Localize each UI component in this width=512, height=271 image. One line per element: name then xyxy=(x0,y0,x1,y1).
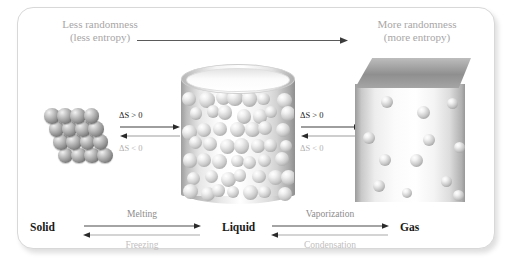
gas-particle xyxy=(379,154,391,166)
liquid-particle xyxy=(251,139,264,152)
transition-arrows-liquid-gas-icon xyxy=(270,222,390,240)
solid-particle xyxy=(84,108,100,124)
cylinder-rim-inner xyxy=(186,68,290,92)
liquid-particle xyxy=(258,186,271,199)
gas-particle xyxy=(453,190,464,201)
liquid-particle xyxy=(252,170,265,183)
gas-particle xyxy=(402,188,412,198)
liquid-particle xyxy=(281,170,294,185)
liquid-particle xyxy=(230,122,245,137)
transition-condensation-label: Condensation xyxy=(270,240,390,250)
liquid-particle xyxy=(243,185,258,200)
gas-particle xyxy=(363,132,375,144)
entropy-reverse-label-solid-liquid: ΔS < 0 xyxy=(119,143,181,153)
more-randomness-line2: (more entropy) xyxy=(352,31,482,44)
liquid-particle xyxy=(183,184,198,199)
liquid-particle xyxy=(213,122,227,136)
liquid-particle xyxy=(257,93,269,105)
liquid-particle xyxy=(245,122,260,137)
solid-particle xyxy=(88,121,104,137)
entropy-arrows-solid-liquid-icon xyxy=(119,123,181,143)
gas-particle xyxy=(381,96,393,108)
gas-cube-illustration xyxy=(349,58,471,206)
liquid-particle xyxy=(189,136,202,149)
entropy-states-diagram: Less randomness (less entropy) More rand… xyxy=(0,0,512,271)
liquid-particle xyxy=(276,123,290,137)
liquid-particle xyxy=(258,154,271,167)
liquid-particle xyxy=(227,186,239,198)
liquid-particle xyxy=(197,153,211,167)
cube-top-face xyxy=(349,58,471,88)
liquid-particle xyxy=(243,156,257,170)
liquid-particle xyxy=(203,137,218,152)
liquid-particle xyxy=(281,106,294,120)
liquid-particle xyxy=(234,169,247,182)
more-randomness-line1: More randomness xyxy=(352,18,482,31)
liquid-particle xyxy=(231,155,243,167)
liquid-particle xyxy=(264,139,277,152)
liquid-particle xyxy=(212,154,227,169)
liquid-particle xyxy=(278,187,292,201)
gas-particle xyxy=(454,142,465,153)
liquid-particle xyxy=(197,123,211,137)
transition-solid-liquid: Melting Freezing xyxy=(82,209,202,255)
state-label-gas: Gas xyxy=(400,221,419,233)
gas-particle xyxy=(417,106,430,119)
transition-liquid-gas: Vaporization Condensation xyxy=(270,209,390,255)
solid-lattice-illustration xyxy=(44,106,114,176)
liquid-particle xyxy=(205,170,218,183)
liquid-particle xyxy=(218,105,233,120)
liquid-particle xyxy=(182,92,196,106)
liquid-particle xyxy=(183,153,198,168)
entropy-forward-label-solid-liquid: ΔS > 0 xyxy=(119,110,181,120)
solid-particle xyxy=(97,148,113,164)
liquid-particle xyxy=(190,107,202,119)
less-randomness-line1: Less randomness xyxy=(40,18,160,31)
solid-particle xyxy=(93,134,109,150)
liquid-cylinder-illustration xyxy=(181,60,295,208)
transition-melting-label: Melting xyxy=(82,209,202,219)
liquid-particle xyxy=(212,184,225,197)
transition-freezing-label: Freezing xyxy=(82,240,202,250)
state-label-solid: Solid xyxy=(30,221,55,233)
liquid-particle xyxy=(234,138,249,153)
entropy-marker-solid-liquid: ΔS > 0 ΔS < 0 xyxy=(119,110,181,158)
gas-particle xyxy=(441,176,452,187)
gas-particle xyxy=(447,98,458,109)
state-label-liquid: Liquid xyxy=(222,221,255,233)
more-randomness-caption: More randomness (more entropy) xyxy=(352,18,482,44)
liquid-particles-group xyxy=(182,90,294,202)
transition-vaporization-label: Vaporization xyxy=(270,209,390,219)
liquid-particle xyxy=(280,140,292,152)
gas-particles-group xyxy=(355,84,465,202)
gas-particle xyxy=(410,154,423,167)
liquid-particle xyxy=(258,121,272,135)
gas-particle xyxy=(423,134,435,146)
transition-arrows-solid-liquid-icon xyxy=(82,222,202,240)
liquid-particle xyxy=(265,106,277,118)
liquid-particle xyxy=(275,152,290,167)
randomness-increase-arrow-icon xyxy=(137,36,349,45)
gas-particle xyxy=(373,180,385,192)
